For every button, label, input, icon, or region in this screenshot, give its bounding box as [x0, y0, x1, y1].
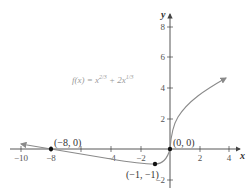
formula-base: f(x) = x: [72, 75, 99, 85]
formula-exp-2: 1/3: [126, 74, 134, 80]
function-curve-left: [21, 144, 170, 164]
x-axis-label: x: [239, 150, 245, 161]
x-tick-label: 4: [227, 153, 232, 163]
function-graph: −10 −8 −4 −2 2 4 x 8 6 4 2 −2 y (−8, 0) …: [0, 0, 251, 194]
y-tick-label: 2: [161, 114, 166, 124]
y-axis-label: y: [160, 9, 166, 20]
y-tick-label: 4: [161, 83, 166, 93]
formula-exp-1: 2/3: [99, 74, 107, 80]
function-formula: f(x) = x2/3 + 2x1/3: [72, 74, 133, 85]
x-tick-label: −2: [136, 153, 146, 163]
point-x-intercept: [49, 147, 53, 151]
formula-mid: + 2x: [107, 75, 126, 85]
label-origin: (0, 0): [173, 137, 195, 149]
x-tick-label: −8: [46, 153, 56, 163]
y-tick-label: 8: [161, 22, 166, 32]
label-minimum: (−1, −1): [126, 169, 159, 181]
x-tick-label: −10: [14, 153, 29, 163]
label-x-intercept: (−8, 0): [54, 137, 81, 149]
y-tick-label: 6: [161, 52, 166, 62]
point-origin: [168, 147, 172, 151]
point-minimum: [153, 162, 157, 166]
x-tick-label: 2: [198, 153, 203, 163]
